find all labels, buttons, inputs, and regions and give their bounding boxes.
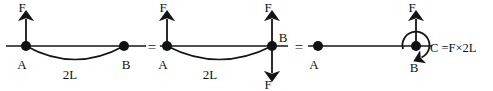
equals-sign-1: = (148, 39, 156, 55)
panel-equivalent-force-and-couple-at-B: F A B C =F×2L (308, 0, 476, 75)
node-label-B: B (410, 60, 419, 75)
node-point-A (162, 41, 172, 51)
force-label-F: F (18, 0, 25, 15)
equals-sign-2: = (295, 39, 303, 55)
node-label-A: A (158, 57, 168, 72)
force-label-F-down-at-B: F (264, 77, 271, 91)
figure-canvas: F A B 2L = F F F A B 2L = (0, 0, 493, 91)
panel-original-force-at-A: F A B 2L (6, 0, 146, 82)
force-label-F-at-A: F (159, 0, 166, 15)
span-arc (167, 46, 272, 60)
force-label-F: F (408, 0, 415, 15)
node-label-B: B (279, 30, 288, 45)
node-label-A: A (17, 57, 27, 72)
node-point-B (411, 41, 421, 51)
span-arc (26, 46, 124, 60)
node-point-A (313, 41, 323, 51)
force-label-F-up-at-B: F (264, 0, 271, 15)
span-length-label: 2L (63, 67, 78, 82)
span-length-label: 2L (203, 67, 218, 82)
free-body-diagram-svg: F A B 2L = F F F A B 2L = (0, 0, 493, 91)
panel-force-pair-added-at-B: F F F A B 2L (158, 0, 288, 91)
node-point-B (267, 41, 277, 51)
node-point-B (119, 41, 129, 51)
moment-value-label: C =F×2L (430, 41, 476, 55)
node-point-A (21, 41, 31, 51)
node-label-A: A (309, 57, 319, 72)
node-label-B: B (122, 57, 131, 72)
